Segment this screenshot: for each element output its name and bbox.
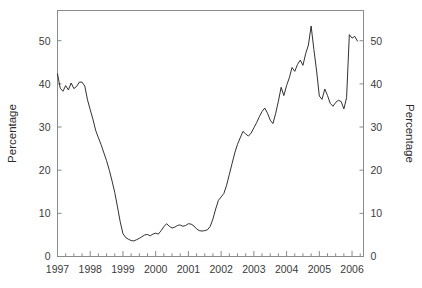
- y-axis-left-title: Percentage: [6, 104, 18, 163]
- y-tick-label-right: 10: [371, 207, 383, 219]
- y-axis-right-title: Percentage: [404, 104, 416, 163]
- y-tick-label-left: 10: [39, 207, 51, 219]
- plot-border: [58, 11, 364, 257]
- y-tick-label-right: 0: [371, 250, 377, 262]
- x-tick-label: 2005: [308, 263, 332, 275]
- x-axis-labels: 1997199819992000200120022003200420052006: [46, 263, 364, 275]
- chart-container: 01020304050 01020304050 1997199819992000…: [0, 0, 422, 288]
- x-tick-label: 2006: [340, 263, 364, 275]
- x-tick-label: 2000: [144, 263, 168, 275]
- y-axis-left-labels: 01020304050: [39, 35, 51, 263]
- x-tick-label: 1999: [111, 263, 135, 275]
- y-tick-label-right: 50: [371, 35, 383, 47]
- y-axis-left-ticks: [58, 41, 62, 257]
- y-axis-right-ticks: [360, 41, 364, 257]
- data-series-line: [58, 26, 358, 241]
- series-polyline: [58, 26, 358, 241]
- x-tick-label: 2002: [209, 263, 233, 275]
- y-tick-label-left: 20: [39, 164, 51, 176]
- x-tick-label: 1998: [79, 263, 103, 275]
- y-tick-label-right: 40: [371, 78, 383, 90]
- y-tick-label-right: 30: [371, 121, 383, 133]
- x-axis-ticks: [58, 251, 361, 257]
- x-tick-label: 2004: [275, 263, 299, 275]
- y-axis-right-labels: 01020304050: [371, 35, 383, 263]
- x-tick-label: 2001: [177, 263, 201, 275]
- percentage-line-chart: 01020304050 01020304050 1997199819992000…: [0, 0, 422, 288]
- y-tick-label-left: 50: [39, 35, 51, 47]
- y-tick-label-right: 20: [371, 164, 383, 176]
- y-tick-label-left: 40: [39, 78, 51, 90]
- y-tick-label-left: 0: [45, 250, 51, 262]
- x-tick-label: 1997: [46, 263, 70, 275]
- plot-frame: [58, 11, 364, 257]
- y-tick-label-left: 30: [39, 121, 51, 133]
- x-tick-label: 2003: [242, 263, 266, 275]
